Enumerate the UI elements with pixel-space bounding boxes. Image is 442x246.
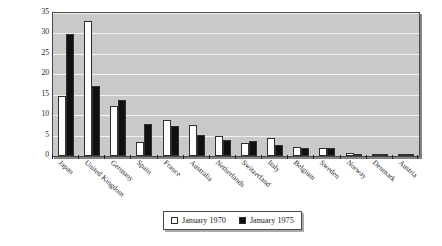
bar-group	[288, 13, 314, 156]
bar-group	[131, 13, 157, 156]
bar-groups	[53, 13, 419, 156]
y-axis-tick-label: 30	[30, 28, 49, 36]
bar	[144, 124, 152, 156]
y-axis-tick-label: 15	[30, 90, 49, 98]
x-axis-category-label: Norway	[345, 158, 369, 181]
bar-chart-figure: Weight of each country within MSCI EAFE …	[0, 0, 442, 246]
chart-legend: January 1970January 1975	[163, 211, 302, 230]
bar-group	[79, 13, 105, 156]
bar	[171, 126, 179, 156]
bar	[66, 34, 74, 156]
bar-group	[210, 13, 236, 156]
y-axis-tick-label: 10	[30, 110, 49, 118]
bar	[215, 136, 223, 156]
bar-group	[341, 13, 367, 156]
y-axis-tick-label: 25	[30, 49, 49, 57]
x-axis-category-label: Belgium	[292, 158, 317, 182]
bar-group	[236, 13, 262, 156]
bar	[118, 100, 126, 156]
open-square-icon	[171, 217, 178, 224]
x-axis-category-label: Australia	[188, 158, 214, 183]
bar-group	[367, 13, 393, 156]
plot-area	[52, 12, 420, 157]
x-axis-category-label: Italy	[266, 158, 282, 174]
bar	[92, 86, 100, 156]
x-axis-category-label: Japan	[57, 158, 76, 176]
bar	[58, 96, 66, 156]
bar	[84, 21, 92, 156]
bar-group	[262, 13, 288, 156]
y-axis-tick-label: 0	[30, 151, 49, 159]
legend-entry: January 1970	[171, 216, 226, 225]
bar	[223, 140, 231, 156]
y-axis-tick-label: 20	[30, 69, 49, 77]
bar	[110, 106, 118, 156]
bar	[249, 141, 257, 156]
bar	[267, 138, 275, 156]
y-axis-tick-label: 5	[30, 131, 49, 139]
y-axis-tick-label: 35	[30, 8, 49, 16]
y-axis-tick-labels: 35302520151050	[30, 7, 49, 159]
legend-label: January 1975	[250, 216, 294, 225]
bar-group	[184, 13, 210, 156]
bar-group	[105, 13, 131, 156]
x-axis-category-label: Austria	[397, 158, 419, 179]
bar-group	[158, 13, 184, 156]
bar-group	[314, 13, 340, 156]
bar	[189, 125, 197, 156]
legend-entry: January 1975	[239, 216, 294, 225]
filled-square-icon	[239, 217, 246, 224]
bar	[197, 135, 205, 156]
x-axis-category-label: Sweden	[318, 158, 342, 181]
bar	[163, 120, 171, 156]
legend-label: January 1970	[182, 216, 226, 225]
x-axis-category-label: France	[162, 158, 183, 178]
x-axis-category-label: Spain	[135, 158, 154, 176]
x-axis-category-labels: JapanUnited KingdomGermanySpainFranceAus…	[52, 158, 418, 206]
bar-group	[393, 13, 419, 156]
bar	[136, 142, 144, 156]
x-axis-category-label: Denmark	[371, 158, 398, 183]
bar-group	[53, 13, 79, 156]
